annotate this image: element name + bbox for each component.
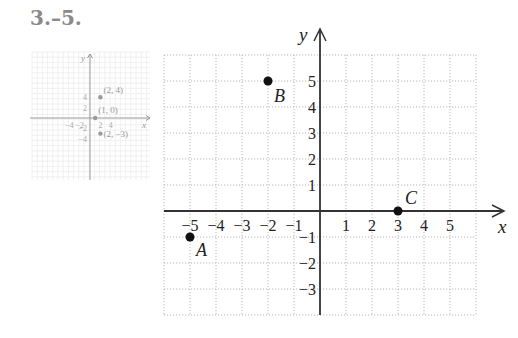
y-tick-label: 5 [308, 73, 316, 90]
x-tick-label: −4 [207, 217, 224, 234]
main-graph: xy−5−4−3−2−11234554321−1−2−3ABC [0, 0, 518, 338]
point-label-c: C [405, 188, 418, 208]
y-tick-label: 4 [308, 99, 316, 116]
y-tick-label: 3 [308, 125, 316, 142]
x-tick-label: 4 [420, 217, 428, 234]
point-a [186, 233, 195, 242]
x-tick-label: 5 [446, 217, 454, 234]
point-c [394, 207, 403, 216]
x-tick-label: −2 [259, 217, 276, 234]
x-tick-label: 3 [394, 217, 402, 234]
point-b [264, 77, 273, 86]
x-tick-label: 1 [342, 217, 350, 234]
x-tick-label: 2 [368, 217, 376, 234]
y-tick-label: 1 [308, 177, 316, 194]
y-tick-label: −1 [299, 229, 316, 246]
x-axis-label: x [497, 216, 507, 237]
point-label-b: B [274, 86, 285, 106]
x-tick-label: −5 [181, 217, 198, 234]
point-label-a: A [195, 240, 208, 260]
x-tick-label: −3 [233, 217, 250, 234]
y-axis-label: y [297, 24, 308, 45]
y-tick-label: −2 [299, 255, 316, 272]
y-tick-label: 2 [308, 151, 316, 168]
y-tick-label: −3 [299, 281, 316, 298]
